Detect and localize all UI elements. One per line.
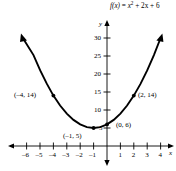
x-tick-label: –2	[76, 152, 83, 159]
point-marker-neg1-5	[92, 126, 96, 130]
y-tick-label: 10	[94, 107, 101, 114]
x-tick-label: 2	[132, 152, 136, 159]
x-tick-label: –5	[36, 152, 43, 159]
x-axis-label: x	[169, 150, 172, 157]
point-marker-2-14	[132, 94, 136, 98]
y-axis-top-arrow	[104, 20, 109, 26]
x-tick-label: –4	[49, 152, 56, 159]
curve-right-arrow	[156, 34, 163, 43]
title-remainder: + 2x + 6	[133, 2, 159, 10]
x-tick-label: 4	[159, 152, 163, 159]
y-axis-label: y	[99, 21, 102, 28]
x-axis-left-arrow	[8, 143, 14, 148]
x-tick-label: 1	[118, 152, 122, 159]
y-axis-bottom-arrow	[104, 160, 109, 166]
parabola-plot	[0, 0, 176, 171]
x-tick-label: –3	[62, 152, 69, 159]
point-marker-0-6	[105, 123, 109, 127]
point-label-neg4-14: (–4, 14)	[14, 92, 36, 99]
point-marker-neg4-14	[52, 94, 56, 98]
x-tick-label: –6	[22, 152, 29, 159]
x-tick-label: 3	[145, 152, 149, 159]
point-label-0-6: (0, 6)	[116, 122, 131, 129]
x-tick-label: –1	[89, 152, 96, 159]
title-equals: =	[120, 2, 128, 10]
y-tick-label: 5	[99, 125, 103, 132]
graph-figure: f(x) = x2 + 2x + 6 y x –6 –5 –4 –3 –2 –1…	[0, 0, 176, 171]
y-tick-label: 15	[94, 89, 101, 96]
parabola-curve	[23, 38, 161, 128]
point-label-2-14: (2, 14)	[138, 92, 157, 99]
x-axis-right-arrow	[168, 143, 174, 148]
curve-left-arrow	[20, 34, 27, 43]
chart-title: f(x) = x2 + 2x + 6	[110, 3, 160, 11]
y-tick-label: 25	[94, 53, 101, 60]
point-label-neg1-5: (–1, 5)	[63, 133, 82, 140]
title-function: f(x)	[110, 2, 120, 10]
y-tick-label: 20	[94, 71, 101, 78]
y-tick-label: 30	[94, 35, 101, 42]
